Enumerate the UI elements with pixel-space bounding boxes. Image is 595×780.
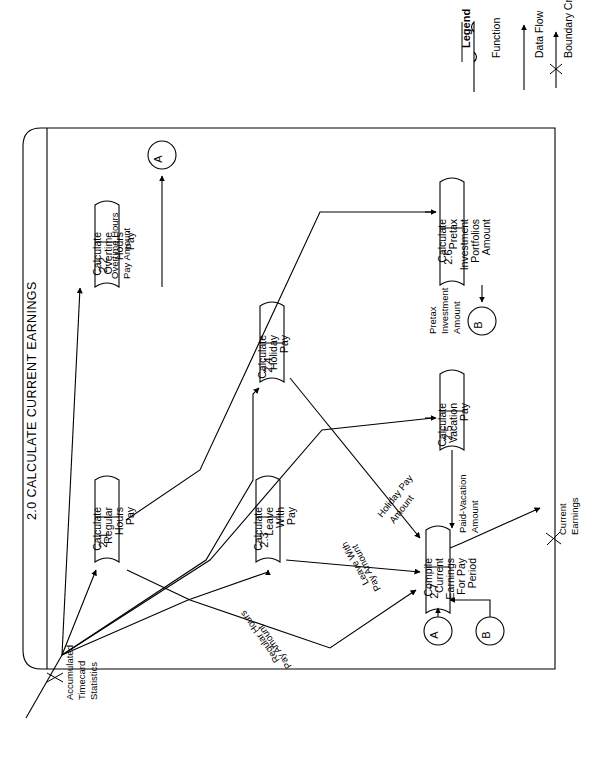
flow-label-pretax-3: Amount bbox=[451, 301, 462, 334]
function-2-6-line-5: Amount bbox=[480, 219, 492, 255]
function-2-5-line-3: Pay bbox=[458, 402, 470, 421]
flow-b-to-2-7 bbox=[450, 600, 490, 617]
connector-b-mid-label: B bbox=[472, 321, 484, 328]
flow-label-pretax-2: Investment bbox=[439, 287, 450, 334]
legend-label-dataflow: Data Flow bbox=[533, 10, 545, 58]
flow-label-overtime-1: Overtime Hours bbox=[109, 212, 120, 279]
connector-b-bottom-label: B bbox=[480, 631, 492, 638]
function-2-7-line-5: Period bbox=[466, 558, 478, 589]
flow-label-accumulated-2: Timecard bbox=[76, 661, 87, 700]
legend: Legend Function Data Flow Boundary Cross… bbox=[460, 0, 574, 92]
flow-label-current-1: Current bbox=[557, 503, 568, 535]
function-2-4-line-3: Pay bbox=[278, 334, 290, 353]
diagram-canvas: Legend Function Data Flow Boundary Cross… bbox=[0, 0, 595, 780]
flow-label-accumulated-3: Statistics bbox=[88, 662, 99, 700]
legend-dataflow-row: Data Flow bbox=[524, 10, 545, 90]
connector-b-mid[interactable]: B bbox=[468, 307, 496, 335]
flow-paid-vacation: Paid-Vacation Amount bbox=[452, 450, 480, 533]
function-2-6[interactable]: 2.6 Calculate Pretax Investment Portfoli… bbox=[436, 178, 492, 285]
flow-label-overtime-2: Pay Amount bbox=[121, 227, 132, 279]
connector-a-bottom[interactable]: A bbox=[424, 617, 452, 645]
legend-label-boundary-1: Boundary Crossing bbox=[562, 0, 574, 58]
function-2-1[interactable]: 2.1 Calculate Regular Hours Pay bbox=[91, 476, 136, 562]
connector-a-top-label: A bbox=[152, 155, 164, 163]
connector-b-bottom[interactable]: B bbox=[476, 617, 504, 645]
connector-a-top[interactable]: A bbox=[148, 141, 176, 169]
flow-overtime-pay: Overtime Hours Pay Amount bbox=[109, 176, 162, 287]
connector-a-bottom-label: A bbox=[428, 631, 440, 639]
function-2-3[interactable]: 2.3 Calculate Leave With Pay bbox=[252, 476, 297, 562]
flow-leave-with-pay: Leave With Pay Amount bbox=[286, 540, 420, 593]
dfd-svg: Legend Function Data Flow Boundary Cross… bbox=[0, 0, 595, 780]
function-2-5[interactable]: 2.5 Calculate Vacation Pay bbox=[436, 370, 470, 450]
flow-label-pretax-1: Pretax bbox=[427, 306, 438, 334]
legend-label-function: Function bbox=[490, 18, 502, 58]
flow-to-2-2 bbox=[62, 288, 80, 655]
function-2-3-line-4: Pay bbox=[285, 506, 297, 525]
function-2-1-line-4: Pay bbox=[124, 506, 136, 525]
page-title: 2.0 CALCULATE CURRENT EARNINGS bbox=[25, 281, 39, 520]
flow-accumulated-line bbox=[26, 655, 62, 718]
flow-label-vacation-2: Amount bbox=[469, 500, 480, 533]
flow-accumulated-timecard: Accumulated Timecard Statistics bbox=[26, 645, 99, 718]
flow-label-vacation-1: Paid-Vacation bbox=[457, 475, 468, 533]
flow-to-2-3-seg1 bbox=[62, 572, 268, 655]
flow-label-current-2: Earnings bbox=[569, 497, 580, 535]
legend-boundary-row: Boundary Crossing bbox=[550, 0, 574, 88]
function-shape-icon bbox=[472, 22, 477, 92]
flow-holiday-pay: Holiday Pay Amount bbox=[290, 378, 420, 538]
legend-function-row: Function bbox=[472, 18, 503, 92]
